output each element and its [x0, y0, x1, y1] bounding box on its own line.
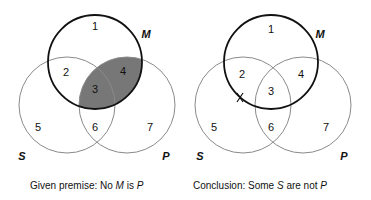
premise-diagram: 1 2 3 4 5 6 7 M S P [18, 15, 175, 162]
caption-term: P [137, 180, 144, 191]
set-label-s: S [196, 150, 204, 162]
conclusion-diagram: 1 2 3 4 5 6 7 M S P [195, 15, 351, 162]
region-4-label: 4 [298, 68, 304, 80]
region-1-label: 1 [268, 23, 274, 35]
region-7-label: 7 [323, 121, 329, 133]
region-7-label: 7 [147, 121, 153, 133]
premise-caption: Given premise: No M is P [30, 180, 143, 191]
region-2-label: 2 [239, 68, 245, 80]
region-4-label: 4 [120, 65, 126, 77]
caption-text: Conclusion: Some [193, 180, 277, 191]
caption-text: is [124, 180, 137, 191]
set-label-m: M [315, 28, 325, 40]
caption-term: M [116, 180, 124, 191]
caption-text: are not [284, 180, 321, 191]
region-5-label: 5 [35, 121, 41, 133]
region-3-label: 3 [268, 85, 274, 97]
region-5-label: 5 [211, 121, 217, 133]
region-3-label: 3 [92, 83, 98, 95]
caption-term: S [277, 180, 284, 191]
set-label-p: P [340, 150, 348, 162]
caption-term: P [320, 180, 327, 191]
set-label-p: P [162, 150, 170, 162]
x-mark [237, 93, 243, 102]
region-6-label: 6 [92, 121, 98, 133]
conclusion-caption: Conclusion: Some S are not P [193, 180, 327, 191]
region-2-label: 2 [63, 66, 69, 78]
venn-diagrams: 1 2 3 4 5 6 7 M S P 1 2 3 4 5 6 7 M S P [0, 0, 371, 200]
set-label-s: S [18, 150, 26, 162]
caption-text: Given premise: No [30, 180, 116, 191]
set-label-m: M [141, 28, 151, 40]
region-1-label: 1 [92, 20, 98, 32]
region-6-label: 6 [268, 121, 274, 133]
